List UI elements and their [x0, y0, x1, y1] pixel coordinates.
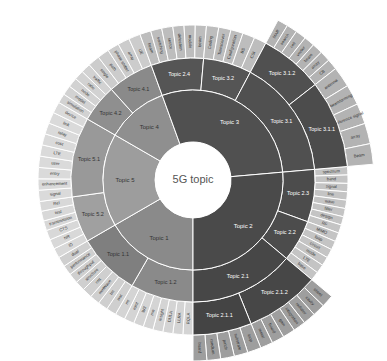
label-topic-3-2: Topic 3.2 [212, 75, 234, 81]
label-topic-3-1: Topic 3.1 [270, 118, 292, 124]
label-topic-1: Topic 1 [149, 235, 169, 241]
sunburst-chart: RQLALLRADULAinsightmnW3mmtmtwottmmmWaver… [0, 0, 387, 361]
label-topic-3-1-2: Topic 3.1.2 [269, 70, 296, 76]
label-topic-4-2: Topic 4.2 [100, 110, 122, 116]
label-topic-2-1-1: Topic 2.1.1 [206, 312, 233, 318]
label-topic-2: Topic 2 [234, 223, 254, 229]
label-topic-2-1: Topic 2.1 [227, 273, 249, 279]
leaf-label-rel: Rel [53, 200, 60, 206]
leaf-label-llra: LLRA [176, 312, 182, 323]
leaf-label-rqla: RQLA [185, 312, 190, 324]
center-label: 5G topic [173, 173, 214, 185]
leaf-label-user: user [51, 160, 60, 166]
label-topic-5-2: Topic 5.2 [82, 211, 104, 217]
leaf-label-signal: signal [326, 184, 337, 190]
leaf-label-board: board [197, 342, 202, 354]
label-topic-5-1: Topic 5.1 [78, 156, 100, 162]
leaf-label-line: line [327, 191, 335, 197]
leaf-label-spectrum: spectrum [322, 168, 340, 174]
label-topic-5: Topic 5 [115, 177, 135, 183]
leaf-label-module: module [188, 35, 193, 50]
label-topic-4-1: Topic 4.1 [127, 86, 149, 92]
label-topic-2-4: Topic 2.4 [168, 71, 190, 77]
leaf-label-entry: entry [50, 171, 60, 176]
leaf-label-band: band [327, 176, 337, 181]
label-topic-3-1-1: Topic 3.1.1 [309, 126, 336, 132]
leaf-label-beam: beam [197, 36, 203, 47]
leaf-label-enhancement: enhancement [42, 181, 68, 187]
label-topic-4: Topic 4 [140, 124, 160, 130]
label-topic-3: Topic 3 [220, 119, 240, 125]
label-topic-1-2: Topic 1.2 [155, 279, 177, 285]
label-topic-2-2: Topic 2.2 [274, 229, 296, 235]
label-topic-2-1-2: Topic 2.1.2 [261, 289, 288, 295]
label-topic-1-1: Topic 1.1 [107, 251, 129, 257]
label-topic-2-3: Topic 2.3 [287, 190, 309, 196]
